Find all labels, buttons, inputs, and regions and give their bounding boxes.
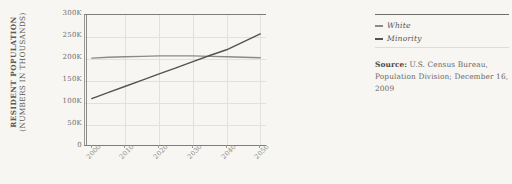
series-line-white — [92, 56, 261, 58]
y-tick-label: 250K — [36, 31, 82, 39]
y-tick-label: 100K — [36, 97, 82, 105]
y-tick: 50K — [32, 119, 82, 129]
right-panel: WhiteMinority Source: U.S. Census Bureau… — [372, 0, 512, 184]
plot-top-border — [84, 14, 266, 15]
y-tick-label: 150K — [36, 75, 82, 83]
source-label: Source: — [375, 60, 407, 69]
y-tick: 150K — [32, 75, 82, 85]
legend-bottom-divider — [375, 47, 509, 48]
series-lines — [85, 15, 267, 147]
legend-label: White — [387, 21, 411, 30]
source-note: Source: U.S. Census Bureau, Population D… — [375, 59, 511, 96]
y-tick-label: 50K — [36, 119, 82, 127]
series-line-minority — [92, 34, 261, 99]
y-tick: 300K — [32, 9, 82, 19]
y-tick-label: 200K — [36, 53, 82, 61]
y-axis-line — [86, 14, 87, 146]
legend-item-minority[interactable]: Minority — [375, 32, 509, 45]
y-tick: 0 — [32, 141, 82, 151]
y-axis-title-line2: (NUMBERS IN THOUSANDS) — [19, 4, 28, 140]
legend-swatch-icon — [375, 38, 383, 40]
y-tick: 250K — [32, 31, 82, 41]
legend-item-white[interactable]: White — [375, 19, 509, 32]
chart-screenshot: RESIDENT POPULATION (NUMBERS IN THOUSAND… — [0, 0, 512, 184]
legend-label: Minority — [387, 34, 422, 43]
y-tick: 100K — [32, 97, 82, 107]
plot-frame — [84, 14, 266, 146]
chart-area: RESIDENT POPULATION (NUMBERS IN THOUSAND… — [0, 0, 340, 184]
y-tick: 200K — [32, 53, 82, 63]
x-axis-tick-labels: 200020102020203020402050 — [84, 147, 266, 183]
legend-top-divider — [375, 14, 509, 15]
legend-swatch-icon — [375, 25, 383, 27]
y-tick-label: 0 — [36, 141, 82, 149]
y-axis-tick-labels: 050K100K150K200K250K300K — [32, 14, 82, 146]
y-tick-label: 300K — [36, 9, 82, 17]
y-axis-title-line1: RESIDENT POPULATION — [10, 4, 19, 140]
chart-legend: WhiteMinority — [375, 19, 509, 45]
